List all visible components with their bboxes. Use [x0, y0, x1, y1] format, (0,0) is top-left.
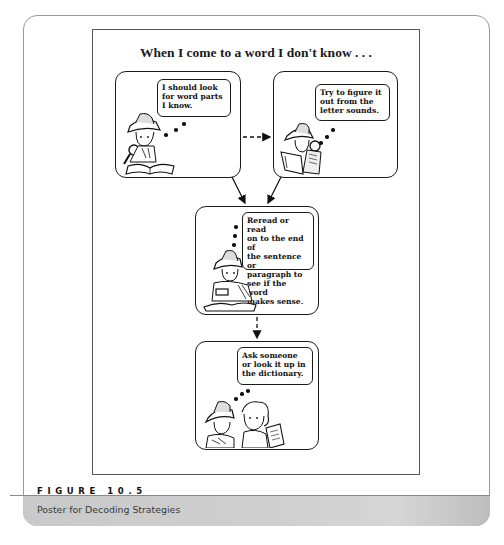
flow-connectors	[0, 0, 504, 545]
arrow-panel1-to-panel3	[232, 177, 245, 203]
arrow-panel2-to-panel3	[268, 177, 281, 203]
caption-divider	[10, 495, 490, 496]
figure-caption: Poster for Decoding Strategies	[37, 504, 180, 515]
